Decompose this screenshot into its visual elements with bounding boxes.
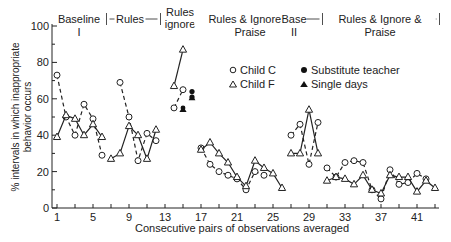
child-c-marker xyxy=(99,152,105,158)
child-f-marker xyxy=(314,149,321,156)
legend-child-f-icon xyxy=(230,81,237,87)
child-c-marker xyxy=(288,132,294,138)
child-c-marker xyxy=(396,181,402,187)
child-c-marker xyxy=(261,172,267,178)
child-f-marker xyxy=(431,184,438,191)
x-tick-label: 41 xyxy=(411,211,423,223)
child-c-marker xyxy=(171,105,177,111)
phase-label: Praise xyxy=(234,26,265,38)
child-c-marker xyxy=(72,132,78,138)
y-tick-label: 100 xyxy=(31,20,49,32)
legend-substitute-teacher-label: Substitute teacher xyxy=(311,64,400,76)
child-f-marker xyxy=(143,155,150,162)
child-f-marker xyxy=(125,122,132,129)
phase-label: Rules xyxy=(166,6,195,18)
child-c-marker xyxy=(81,101,87,107)
phase-label: Praise xyxy=(364,26,395,38)
legend-child-f-label: Child F xyxy=(240,78,275,90)
child-c-marker xyxy=(378,196,384,202)
child-c-marker xyxy=(126,114,132,120)
y-tick-label: 60 xyxy=(37,93,49,105)
child-c-marker xyxy=(207,161,213,167)
child-f-marker xyxy=(305,106,312,113)
y-tick-label: 40 xyxy=(37,129,49,141)
legend-substitute-teacher-icon xyxy=(301,67,307,73)
phase-label: Rules & Ignore & xyxy=(338,13,422,25)
child-c-marker xyxy=(315,119,321,125)
child-c-marker xyxy=(117,79,123,85)
behavior-chart: 0204060801001591317212529333741Consecuti… xyxy=(0,0,451,242)
child-f-marker xyxy=(359,171,366,178)
phase-label: Baseline xyxy=(58,13,100,25)
x-axis-label: Consecutive pairs of observations averag… xyxy=(135,222,349,234)
child-f-marker xyxy=(260,164,267,171)
phase-label: I xyxy=(77,26,80,38)
child-c-marker xyxy=(225,172,231,178)
legend-child-c-label: Child C xyxy=(240,64,276,76)
legend-single-days-label: Single days xyxy=(311,78,368,90)
child-f-marker xyxy=(53,133,60,140)
y-tick-label: 80 xyxy=(37,56,49,68)
child-c-marker xyxy=(360,160,366,166)
child-c-marker xyxy=(351,158,357,164)
child-f-marker xyxy=(62,111,69,118)
child-f-marker xyxy=(89,120,96,127)
phase-label: ignore xyxy=(165,18,196,30)
child-c-marker xyxy=(180,87,186,93)
child-c-marker xyxy=(297,121,303,127)
x-tick-label: 37 xyxy=(375,211,387,223)
child-c-marker xyxy=(414,170,420,176)
y-tick-label: 0 xyxy=(43,202,49,214)
child-f-marker xyxy=(206,138,213,145)
chart-svg: 0204060801001591317212529333741Consecuti… xyxy=(0,0,451,242)
x-tick-label: 1 xyxy=(54,211,60,223)
child-c-marker xyxy=(324,165,330,171)
y-tick-label: 20 xyxy=(37,166,49,178)
y-axis-label-line2: behavior occurs xyxy=(22,82,33,153)
child-c-marker xyxy=(252,169,258,175)
child-f-marker xyxy=(404,173,411,180)
x-tick-label: 9 xyxy=(126,211,132,223)
child-f-marker xyxy=(296,149,303,156)
child-f-marker xyxy=(251,157,258,164)
y-axis-label-line1: % intervals in which inappropriate xyxy=(10,42,21,191)
substitute-teacher-marker xyxy=(189,89,194,94)
child-c-marker xyxy=(54,72,60,78)
child-f-marker xyxy=(116,149,123,156)
child-f-marker xyxy=(107,155,114,162)
legend-single-days-icon xyxy=(300,81,308,87)
legend-child-c-icon xyxy=(230,67,236,73)
child-c-marker xyxy=(144,130,150,136)
phase-label: Rules xyxy=(116,13,145,25)
child-c-marker xyxy=(216,169,222,175)
phase-label: II xyxy=(291,26,297,38)
child-f-marker xyxy=(170,82,177,89)
child-f-line xyxy=(174,50,183,86)
phase-label: Base xyxy=(281,13,306,25)
phase-label: Rules & Ignore & xyxy=(208,13,292,25)
substitute-teacher-marker xyxy=(181,106,186,111)
child-c-marker xyxy=(306,161,312,167)
child-f-marker xyxy=(269,169,276,176)
child-f-marker xyxy=(386,171,393,178)
x-tick-label: 5 xyxy=(90,211,96,223)
child-c-marker xyxy=(135,158,141,164)
child-f-marker xyxy=(179,46,186,53)
child-c-marker xyxy=(342,160,348,166)
child-f-marker xyxy=(152,126,159,133)
child-f-marker xyxy=(287,149,294,156)
